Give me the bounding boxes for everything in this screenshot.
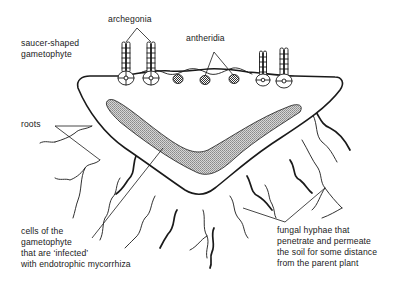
antheridium xyxy=(200,76,210,85)
label-line: gametophyte xyxy=(21,49,79,60)
gametophyte-body xyxy=(78,68,343,194)
archegonium xyxy=(143,42,159,85)
antheridium xyxy=(173,75,183,84)
archegonium xyxy=(118,42,134,85)
label-line: gametophyte xyxy=(21,237,131,248)
label-line: the soil for some distance xyxy=(277,247,377,258)
label-line: with endotrophic mycorrhiza xyxy=(21,259,131,270)
label-line: that are ‘infected’ xyxy=(21,248,131,259)
label-antheridia: antheridia xyxy=(186,33,225,44)
label-line: from the parent plant xyxy=(277,258,377,269)
label-line: saucer-shaped xyxy=(21,38,79,49)
label-text: antheridia xyxy=(186,33,225,44)
label-text: roots xyxy=(21,119,41,130)
label-fungal-hyphae: fungal hyphae that penetrate and permeat… xyxy=(277,225,377,269)
archegonium xyxy=(256,51,270,86)
label-line: fungal hyphae that xyxy=(277,225,377,236)
label-text: archegonia xyxy=(108,14,152,25)
label-line: cells of the xyxy=(21,226,131,237)
label-archegonia: archegonia xyxy=(108,14,152,25)
label-line: penetrate and permeate xyxy=(277,236,377,247)
label-saucer-shaped-gametophyte: saucer-shaped gametophyte xyxy=(21,38,79,60)
archegonium xyxy=(276,48,292,88)
label-infected-cells: cells of the gametophyte that are ‘infec… xyxy=(21,226,131,270)
label-roots: roots xyxy=(21,119,41,130)
